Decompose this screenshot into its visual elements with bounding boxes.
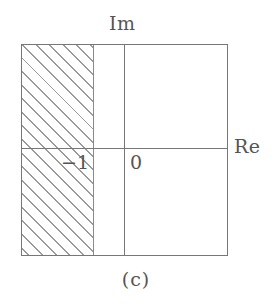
real-axis-label: Re	[234, 136, 261, 157]
tick-label-zero: 0	[130, 151, 142, 173]
figure-caption: (c)	[0, 268, 272, 290]
shaded-region-hatched	[22, 45, 94, 255]
imaginary-axis-label: Im	[109, 13, 136, 34]
complex-plane-figure: Im Re −1 0 (c)	[0, 0, 272, 306]
tick-label-minus-one: −1	[61, 151, 89, 173]
imaginary-axis-line	[124, 44, 125, 256]
